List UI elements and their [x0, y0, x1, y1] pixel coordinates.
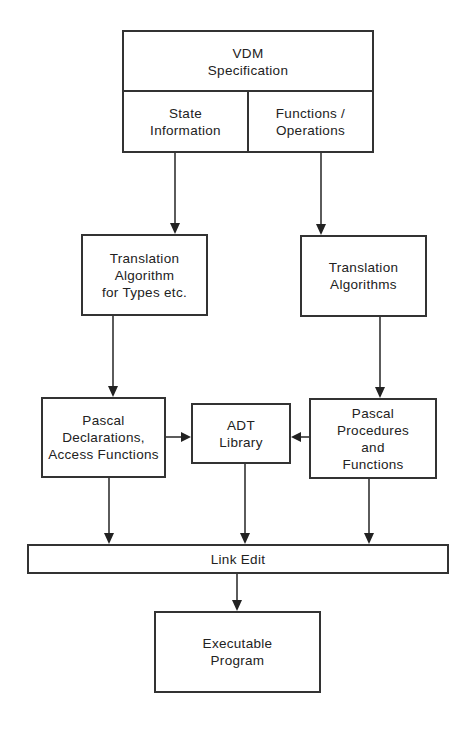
executable-program-box: Executable Program [154, 611, 321, 693]
translation-algorithms-box: Translation Algorithms [300, 235, 427, 317]
arrow-translation-algorithms-to-pascal-procedures [375, 317, 385, 398]
arrow-adt-to-link-edit [240, 464, 250, 544]
link-edit-box: Link Edit [27, 544, 449, 574]
arrow-pascal-procedures-to-adt [291, 432, 309, 442]
arrow-pascal-declarations-to-link-edit [104, 478, 114, 544]
state-information-box: State Information [122, 90, 249, 153]
arrow-state-to-translation-types [170, 153, 180, 234]
arrow-functions-to-translation-algorithms [316, 153, 326, 235]
pascal-procedures-box: Pascal Procedures and Functions [309, 398, 437, 479]
translation-types-box: Translation Algorithm for Types etc. [81, 234, 208, 316]
pascal-declarations-label: Pascal Declarations, Access Functions [48, 412, 159, 463]
vdm-specification-box: VDM Specification [122, 30, 374, 92]
translation-algorithms-label: Translation Algorithms [329, 259, 399, 293]
arrow-pascal-declarations-to-adt [166, 432, 191, 442]
executable-program-label: Executable Program [203, 635, 273, 669]
translation-types-label: Translation Algorithm for Types etc. [102, 250, 187, 301]
arrow-pascal-procedures-to-link-edit [364, 479, 374, 544]
arrow-translation-types-to-pascal-declarations [108, 316, 118, 397]
vdm-specification-label: VDM Specification [208, 45, 288, 79]
functions-operations-box: Functions / Operations [247, 90, 374, 153]
functions-operations-label: Functions / Operations [276, 105, 345, 139]
state-information-label: State Information [150, 105, 221, 139]
adt-library-label: ADT Library [219, 417, 262, 451]
adt-library-box: ADT Library [191, 403, 291, 464]
pascal-procedures-label: Pascal Procedures and Functions [337, 405, 409, 473]
link-edit-label: Link Edit [211, 551, 265, 568]
arrow-link-edit-to-executable [232, 574, 242, 611]
pascal-declarations-box: Pascal Declarations, Access Functions [41, 397, 166, 478]
